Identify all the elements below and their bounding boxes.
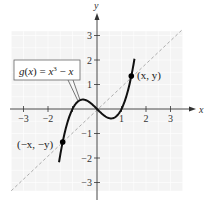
point-marker xyxy=(129,73,135,79)
y-tick-label: 1 xyxy=(87,79,92,90)
y-axis-arrow-icon xyxy=(95,13,100,20)
x-tick-label: −2 xyxy=(43,113,54,124)
point-label-negative: (−x, −y) xyxy=(17,138,54,151)
x-tick-label: 3 xyxy=(168,113,173,124)
point-marker xyxy=(60,139,66,145)
point-label-positive: (x, y) xyxy=(137,69,161,82)
y-tick-label: −2 xyxy=(81,153,92,164)
x-axis-label: x xyxy=(198,104,204,115)
x-tick-label: 1 xyxy=(119,113,124,124)
y-axis-label: y xyxy=(93,0,99,11)
function-graph: −3−2123−3−2−1123 x y g(x) = x3 − x (x, y… xyxy=(0,0,207,208)
x-tick-label: −3 xyxy=(18,113,29,124)
y-tick-label: 3 xyxy=(87,30,92,41)
x-tick-label: 2 xyxy=(144,113,149,124)
y-tick-label: −1 xyxy=(81,128,92,139)
y-tick-label: −3 xyxy=(81,177,92,188)
y-tick-label: 2 xyxy=(87,55,92,66)
x-axis-arrow-icon xyxy=(189,107,196,112)
annotation-text: g(x) = x3 − x xyxy=(19,65,74,78)
